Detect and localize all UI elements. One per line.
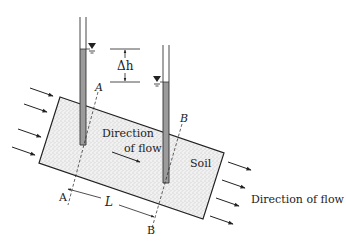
- inflow-arrow-icon: [30, 88, 53, 96]
- length-label: L: [104, 195, 113, 209]
- direction-of-flow-inner-line1: Direction: [102, 127, 154, 140]
- point-b-bottom-label: B: [147, 224, 155, 237]
- inflow-arrow-icon: [12, 147, 35, 155]
- outflow-arrow-icon: [216, 198, 239, 206]
- point-b-top-label: B: [179, 112, 188, 125]
- point-a-top-label: A: [94, 81, 103, 94]
- delta-h-dimension: Δh: [110, 49, 140, 82]
- outflow-arrow-icon: [210, 216, 233, 224]
- water-level-icon: [153, 76, 161, 86]
- direction-of-flow-outer-label: Direction of flow: [251, 193, 345, 206]
- darcy-flow-diagram: Δh A A B B L Direction of flow Soil Dire…: [0, 0, 346, 247]
- soil-label: Soil: [190, 157, 212, 170]
- outflow-arrow-icon: [228, 162, 251, 170]
- water-level-icon: [88, 43, 96, 53]
- point-a-bottom-label: A: [58, 191, 68, 204]
- outflow-arrow-icon: [222, 180, 245, 188]
- diagram-svg: Δh A A B B L Direction of flow Soil Dire…: [0, 0, 346, 247]
- inflow-arrow-icon: [24, 104, 47, 112]
- inflow-arrow-icon: [18, 129, 41, 137]
- delta-h-label: Δh: [117, 59, 134, 73]
- direction-of-flow-inner-line2: of flow: [124, 142, 162, 155]
